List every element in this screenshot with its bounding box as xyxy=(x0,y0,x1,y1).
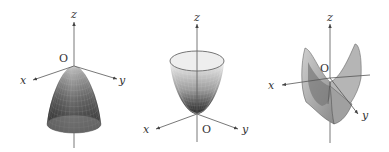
origin-label: O xyxy=(59,52,68,65)
y-axis-label: y xyxy=(361,109,369,122)
panel-hyperbolic-paraboloid: z O x y xyxy=(268,11,370,143)
panel-downward-paraboloid: z O x y xyxy=(20,8,126,148)
panel-upward-paraboloid: z O x y xyxy=(143,11,249,142)
x-axis-label: x xyxy=(268,79,275,92)
z-axis-label: z xyxy=(70,8,77,21)
z-axis-label: z xyxy=(326,11,333,24)
x-axis xyxy=(156,114,197,129)
x-axis-label: x xyxy=(143,123,150,136)
z-axis-label: z xyxy=(193,11,200,24)
x-axis-label: x xyxy=(20,74,27,87)
y-axis-label: y xyxy=(118,74,126,87)
origin-label: O xyxy=(202,123,211,136)
base-ellipse xyxy=(47,115,101,133)
origin-label: O xyxy=(320,62,329,75)
quadric-surfaces-figure: z O x y z O x y z O x y xyxy=(0,0,389,152)
y-axis-label: y xyxy=(241,123,249,136)
